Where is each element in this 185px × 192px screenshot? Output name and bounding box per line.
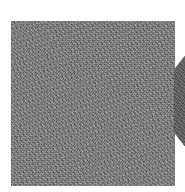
partial-side-shape: [174, 56, 185, 146]
noise-texture-square: [11, 21, 175, 186]
